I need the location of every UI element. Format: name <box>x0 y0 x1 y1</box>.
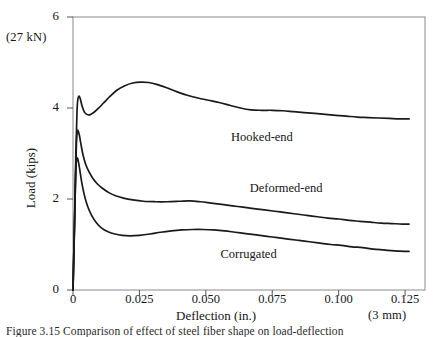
curve-deformed-end <box>73 130 409 290</box>
curve-corrugated <box>73 158 409 290</box>
x-axis-title: Deflection (in.) <box>176 308 256 324</box>
x-axis-unit-note: (3 mm) <box>368 308 406 323</box>
y-axis-unit-note: (27 kN) <box>6 30 47 45</box>
data-curves <box>73 82 409 290</box>
y-axis-title: Load (kips) <box>23 133 39 223</box>
curve-hooked-end <box>73 82 409 290</box>
figure-caption: Figure 3.15 Comparison of effect of stee… <box>6 325 344 337</box>
x-axis-ticks <box>73 290 405 296</box>
y-axis-ticks <box>67 17 73 290</box>
